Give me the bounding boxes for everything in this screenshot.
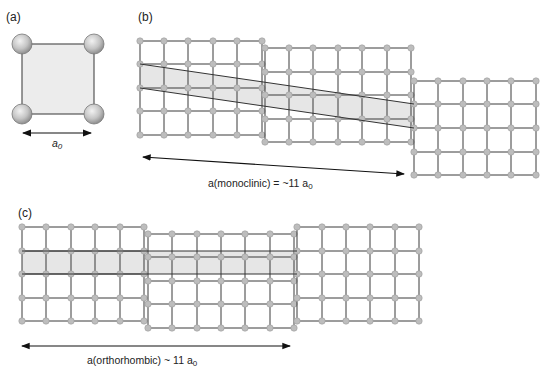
- panel-c-label: (c): [18, 206, 32, 220]
- atom-node-icon: [411, 149, 417, 155]
- atom-node-icon: [508, 101, 514, 107]
- atom-node-icon: [92, 318, 98, 324]
- atom-node-icon: [435, 101, 441, 107]
- atom-node-icon: [267, 231, 273, 237]
- atom-node-icon: [291, 231, 297, 237]
- atom-node-icon: [19, 224, 25, 230]
- atom-node-icon: [145, 231, 151, 237]
- monoclinic-caption: a(monoclinic) = ~11 a0: [208, 177, 313, 191]
- atom-node-icon: [141, 224, 147, 230]
- atom-node-icon: [262, 69, 268, 75]
- lattice-grid-2: [145, 231, 297, 331]
- atom-node-icon: [161, 108, 167, 114]
- atom-node-icon: [408, 139, 414, 145]
- atom-icon: [84, 34, 104, 54]
- atom-node-icon: [92, 295, 98, 301]
- atom-node-icon: [262, 139, 268, 145]
- atom-node-icon: [408, 45, 414, 51]
- atom-node-icon: [343, 295, 349, 301]
- panel-b: (b) a(monoclinic) = ~11 a0: [137, 10, 539, 191]
- atom-icon: [12, 104, 32, 124]
- atom-node-icon: [359, 69, 365, 75]
- atom-node-icon: [185, 108, 191, 114]
- atom-node-icon: [416, 271, 422, 277]
- atom-node-icon: [286, 139, 292, 145]
- atom-node-icon: [117, 224, 123, 230]
- atom-node-icon: [408, 92, 414, 98]
- atom-node-icon: [141, 295, 147, 301]
- atom-node-icon: [310, 92, 316, 98]
- atom-node-icon: [92, 224, 98, 230]
- atom-node-icon: [169, 231, 175, 237]
- atom-node-icon: [367, 318, 373, 324]
- atom-node-icon: [262, 92, 268, 98]
- atom-node-icon: [384, 69, 390, 75]
- atom-node-icon: [218, 254, 224, 260]
- atom-node-icon: [484, 149, 490, 155]
- atom-node-icon: [310, 116, 316, 122]
- atom-node-icon: [384, 116, 390, 122]
- atom-node-icon: [392, 318, 398, 324]
- atom-node-icon: [408, 116, 414, 122]
- atom-node-icon: [343, 271, 349, 277]
- atom-node-icon: [435, 172, 441, 178]
- atom-node-icon: [19, 295, 25, 301]
- atom-node-icon: [194, 254, 200, 260]
- atom-node-icon: [484, 172, 490, 178]
- atom-node-icon: [218, 278, 224, 284]
- atom-node-icon: [460, 78, 466, 84]
- lattice-grid-2: [262, 45, 414, 145]
- atom-node-icon: [218, 231, 224, 237]
- atom-node-icon: [234, 132, 240, 138]
- atom-node-icon: [185, 132, 191, 138]
- atom-node-icon: [137, 108, 143, 114]
- lattice-grid-3: [411, 78, 539, 178]
- atom-node-icon: [117, 295, 123, 301]
- atom-node-icon: [161, 38, 167, 44]
- atom-node-icon: [169, 325, 175, 331]
- atom-node-icon: [234, 108, 240, 114]
- atom-node-icon: [194, 278, 200, 284]
- atom-node-icon: [259, 61, 265, 67]
- atom-node-icon: [43, 318, 49, 324]
- atom-node-icon: [359, 45, 365, 51]
- panel-c: (c) a(orthorhombic) ~ 11 a0: [18, 206, 422, 368]
- atom-node-icon: [435, 78, 441, 84]
- atom-node-icon: [435, 125, 441, 131]
- atom-node-icon: [291, 254, 297, 260]
- panel-a: (a) a0: [6, 10, 104, 151]
- atom-node-icon: [484, 125, 490, 131]
- atom-node-icon: [242, 231, 248, 237]
- atom-node-icon: [416, 248, 422, 254]
- atom-node-icon: [145, 301, 151, 307]
- atom-node-icon: [460, 125, 466, 131]
- atom-node-icon: [194, 325, 200, 331]
- atom-node-icon: [210, 85, 216, 91]
- atom-node-icon: [533, 78, 539, 84]
- atom-node-icon: [234, 61, 240, 67]
- atom-node-icon: [460, 172, 466, 178]
- atom-node-icon: [335, 69, 341, 75]
- atom-node-icon: [359, 139, 365, 145]
- atom-node-icon: [286, 92, 292, 98]
- atom-node-icon: [416, 318, 422, 324]
- atom-node-icon: [19, 318, 25, 324]
- atom-node-icon: [533, 149, 539, 155]
- atom-node-icon: [68, 318, 74, 324]
- atom-node-icon: [291, 301, 297, 307]
- atom-node-icon: [161, 85, 167, 91]
- atom-node-icon: [367, 224, 373, 230]
- atom-node-icon: [117, 318, 123, 324]
- unit-cell-square: [22, 44, 94, 114]
- atom-node-icon: [294, 224, 300, 230]
- atom-node-icon: [508, 78, 514, 84]
- atom-node-icon: [43, 295, 49, 301]
- atom-node-icon: [242, 278, 248, 284]
- atom-node-icon: [141, 318, 147, 324]
- atom-node-icon: [508, 125, 514, 131]
- atom-node-icon: [286, 45, 292, 51]
- atom-node-icon: [343, 318, 349, 324]
- atom-node-icon: [259, 108, 265, 114]
- atom-node-icon: [408, 69, 414, 75]
- atom-node-icon: [533, 125, 539, 131]
